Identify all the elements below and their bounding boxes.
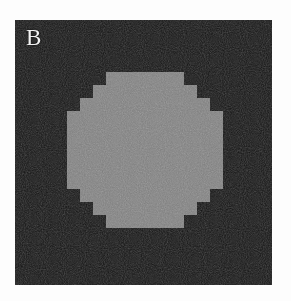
figure-panel-b: B [0, 0, 291, 301]
pixelated-disk [15, 20, 272, 285]
panel-label: B [26, 26, 42, 49]
background-noise-dark [15, 20, 272, 285]
image-panel: B [15, 20, 272, 285]
